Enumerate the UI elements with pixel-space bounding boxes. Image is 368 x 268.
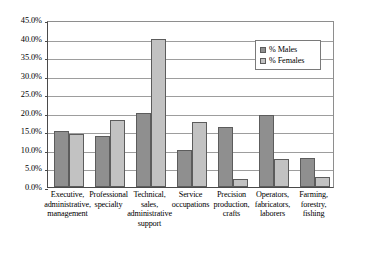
bar-males <box>218 127 233 187</box>
x-category-label: Farming,forestry,fishing <box>289 190 338 219</box>
y-tick-label: 30.0% <box>21 73 42 81</box>
y-tick-label: 25.0% <box>21 91 42 99</box>
x-axis-category-labels: Executive,administrative,managementProfe… <box>47 190 334 260</box>
bar-chart: 45.0%40.0%35.0%30.0%25.0%20.0%15.0%10.0%… <box>0 0 368 268</box>
legend-item-females: % Females <box>260 55 316 66</box>
bar-females <box>69 134 84 187</box>
bar-females <box>110 120 125 187</box>
bar-females <box>151 39 166 187</box>
bar-group <box>48 22 89 187</box>
y-tick-label: 45.0% <box>21 17 42 25</box>
legend-item-males: % Males <box>260 44 316 55</box>
bar-females <box>274 159 289 187</box>
bar-group <box>89 22 130 187</box>
y-axis: 45.0%40.0%35.0%30.0%25.0%20.0%15.0%10.0%… <box>0 0 46 268</box>
bar-females <box>233 179 248 187</box>
bar-group <box>171 22 212 187</box>
bar-males <box>259 115 274 187</box>
y-tick-label: 40.0% <box>21 36 42 44</box>
bar-group <box>212 22 253 187</box>
bar-males <box>95 136 110 187</box>
bar-males <box>136 113 151 187</box>
legend-label-males: % Males <box>269 45 297 54</box>
bar-males <box>300 158 315 187</box>
bar-females <box>192 122 207 187</box>
legend-label-females: % Females <box>269 56 304 65</box>
legend-swatch-females-icon <box>260 58 266 64</box>
y-tick-label: 20.0% <box>21 110 42 118</box>
y-tick-label: 35.0% <box>21 54 42 62</box>
y-tick-label: 0.0% <box>25 184 42 192</box>
y-tick-label: 5.0% <box>25 165 42 173</box>
bar-males <box>54 131 69 187</box>
bar-males <box>177 150 192 187</box>
bar-females <box>315 177 330 187</box>
y-tick-label: 10.0% <box>21 147 42 155</box>
y-tick-label: 15.0% <box>21 128 42 136</box>
bar-group <box>130 22 171 187</box>
legend-swatch-males-icon <box>260 47 266 53</box>
chart-legend: % Males % Females <box>255 40 321 70</box>
